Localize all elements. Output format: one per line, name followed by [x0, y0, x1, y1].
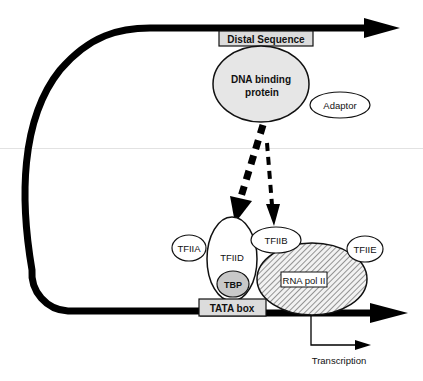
tfiia: TFIIA: [172, 235, 206, 261]
tfiie-label: TFIIE: [353, 244, 376, 255]
distal-sequence-label: Distal Sequence: [227, 34, 305, 45]
tbp: TBP: [217, 271, 249, 297]
top-arrow-head-icon: [364, 18, 400, 38]
arrow-to-tfiib-icon: [266, 204, 280, 226]
dna-binding-protein: DNA binding protein: [213, 46, 309, 122]
tfiib: TFIIB: [251, 227, 301, 253]
dashed-arrows: [230, 125, 280, 226]
adaptor-label: Adaptor: [323, 100, 356, 111]
tfiib-label: TFIIB: [264, 235, 287, 246]
dna-binding-protein-label-2: protein: [245, 87, 279, 98]
tata-box-label: TATA box: [210, 303, 255, 314]
rna-pol-ii-label: RNA pol II: [283, 275, 326, 286]
adaptor: Adaptor: [310, 92, 370, 118]
dna-binding-protein-label-1: DNA binding: [231, 74, 291, 85]
bottom-arrow-head-icon: [370, 303, 408, 323]
transcription-arrow: Transcription: [311, 316, 371, 366]
tbp-label: TBP: [224, 280, 242, 290]
tata-box: TATA box: [199, 299, 266, 316]
transcription-diagram: Distal Sequence DNA binding protein Adap…: [0, 0, 423, 381]
tfiia-label: TFIIA: [177, 243, 201, 254]
distal-sequence-box: Distal Sequence: [219, 31, 313, 46]
transcription-arrow-head-icon: [355, 340, 371, 350]
tfiie: TFIIE: [347, 236, 383, 262]
tfiid-label: TFIID: [220, 252, 244, 263]
transcription-label: Transcription: [312, 355, 367, 366]
